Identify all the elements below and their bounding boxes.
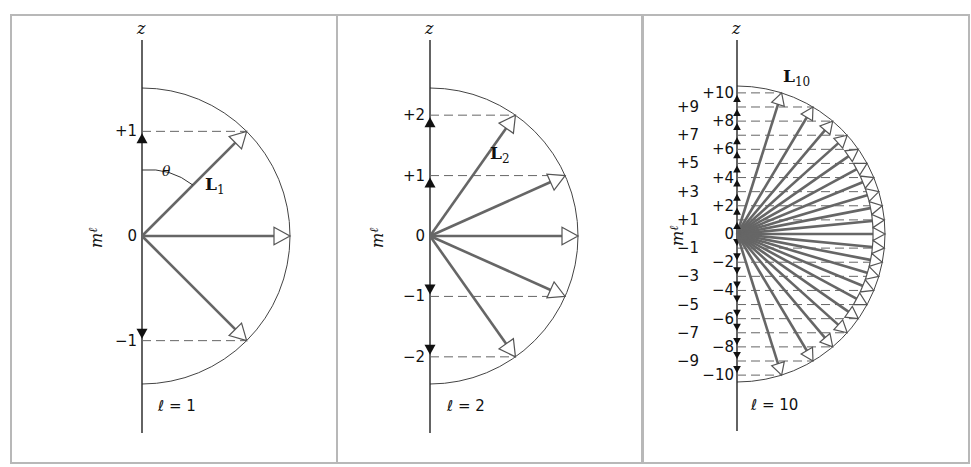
m-tick-label: −7	[677, 324, 699, 342]
m-tick-label: −1	[115, 332, 137, 350]
vector-arrowhead	[274, 227, 290, 245]
L-symbol: L	[783, 66, 795, 86]
m-tick-label: 0	[415, 227, 425, 245]
mz-arrowhead	[733, 267, 741, 274]
m-tick-label: −9	[677, 352, 699, 370]
vector-arrowhead	[869, 202, 882, 215]
m-tick-label: +1	[115, 122, 137, 140]
mz-arrowhead	[733, 151, 741, 158]
m-tick-label: −3	[677, 267, 699, 285]
mz-arrowhead	[733, 324, 741, 331]
vector-arrowhead	[499, 115, 515, 133]
m-tick-label: +2	[712, 197, 734, 215]
m-tick-label: 0	[127, 227, 137, 245]
m-tick-label: +10	[702, 84, 734, 102]
vector-arrowhead	[869, 253, 882, 266]
angular-momentum-figure: zmℓ+10−1L1θℓ = 1 zmℓ+2+10−1−2L2ℓ = 2 zmℓ…	[0, 0, 971, 467]
m-tick-label: −2	[403, 348, 425, 366]
z-axis-label: z	[424, 19, 434, 38]
m-ell-axis-label: mℓ	[86, 228, 106, 248]
mz-arrowhead	[425, 178, 436, 188]
vector-arrowhead	[772, 93, 785, 106]
m-tick-label: +8	[712, 112, 734, 130]
ell-value-label: ℓ = 1	[157, 397, 196, 415]
vector-label: L10	[783, 66, 810, 89]
vector-label: L2	[490, 143, 510, 166]
panel-l2: zmℓ+2+10−1−2L2ℓ = 2	[337, 15, 642, 463]
mz-arrowhead	[733, 95, 741, 102]
vector-arrowhead	[865, 267, 878, 280]
m-tick-label: +6	[712, 140, 734, 158]
m-ell-axis-label: mℓ	[367, 228, 387, 248]
ell-subscript: ℓ	[86, 228, 100, 233]
vector-label: L1	[205, 174, 225, 197]
m-tick-label: −2	[712, 253, 734, 271]
vector-arrowhead	[845, 306, 859, 318]
vector-arrowhead	[845, 149, 859, 161]
vector-arrowhead	[860, 176, 874, 188]
mz-arrowhead	[733, 109, 741, 116]
panel-l10: zmℓ+10+9+8+7+6+5+4+3+2+10−1−2−3−4−5−6−7−…	[643, 15, 969, 463]
mz-arrowhead	[137, 329, 148, 339]
m-tick-label: +2	[403, 106, 425, 124]
m-tick-label: +1	[677, 211, 699, 229]
mz-arrowhead	[733, 310, 741, 317]
mz-arrowhead	[733, 165, 741, 172]
m-tick-label: +7	[677, 126, 699, 144]
m-tick-label: 0	[724, 225, 734, 243]
m-tick-label: +4	[712, 169, 734, 187]
mz-arrowhead	[733, 366, 741, 373]
panel-l1: zmℓ+10−1L1θℓ = 1	[11, 15, 337, 463]
vector-arrowhead	[562, 227, 578, 245]
vector-arrowhead	[872, 240, 885, 253]
m-tick-label: +9	[677, 98, 699, 116]
m-symbol: m	[368, 233, 387, 248]
L-subscript: 2	[502, 152, 510, 166]
mz-arrowhead	[733, 281, 741, 288]
angular-momentum-vector	[142, 236, 238, 332]
z-axis-label: z	[136, 19, 146, 38]
mz-arrowhead	[733, 338, 741, 345]
mz-arrowhead	[733, 123, 741, 130]
mz-arrowhead	[733, 253, 741, 260]
ell-subscript: ℓ	[367, 228, 381, 233]
L-subscript: 1	[217, 183, 225, 197]
mz-arrowhead	[733, 296, 741, 303]
m-tick-label: +5	[677, 154, 699, 172]
mz-arrowhead	[733, 208, 741, 215]
L-symbol: L	[205, 174, 217, 194]
mz-arrowhead	[733, 180, 741, 187]
mz-arrowhead	[425, 345, 436, 355]
vector-arrowhead	[873, 227, 885, 240]
mz-arrowhead	[137, 133, 148, 143]
panel-frame	[11, 15, 337, 463]
mz-arrowhead	[733, 194, 741, 201]
L-symbol: L	[490, 143, 502, 163]
vector-arrowhead	[499, 339, 515, 357]
m-tick-label: −6	[712, 310, 734, 328]
vector-arrowhead	[860, 280, 874, 292]
vector-arrowhead	[865, 189, 878, 202]
m-symbol: m	[87, 233, 106, 248]
mz-arrowhead	[425, 284, 436, 294]
mz-arrowhead	[425, 117, 436, 127]
m-tick-label: +1	[403, 167, 425, 185]
L-subscript: 10	[795, 75, 810, 89]
m-tick-label: −1	[403, 287, 425, 305]
ell-value-label: ℓ = 2	[446, 397, 485, 415]
z-axis-label: z	[731, 19, 741, 38]
m-tick-label: −8	[712, 338, 734, 356]
vector-arrowhead	[872, 214, 885, 227]
mz-arrowhead	[733, 352, 741, 359]
vector-arrowhead	[772, 362, 785, 375]
m-tick-label: −4	[712, 281, 734, 299]
m-tick-label: +3	[677, 183, 699, 201]
m-tick-label: −1	[677, 239, 699, 257]
mz-arrowhead	[733, 137, 741, 144]
m-tick-label: −10	[702, 366, 734, 384]
m-tick-label: −5	[677, 296, 699, 314]
theta-label: θ	[162, 163, 171, 179]
ell-value-label: ℓ = 10	[750, 396, 798, 414]
